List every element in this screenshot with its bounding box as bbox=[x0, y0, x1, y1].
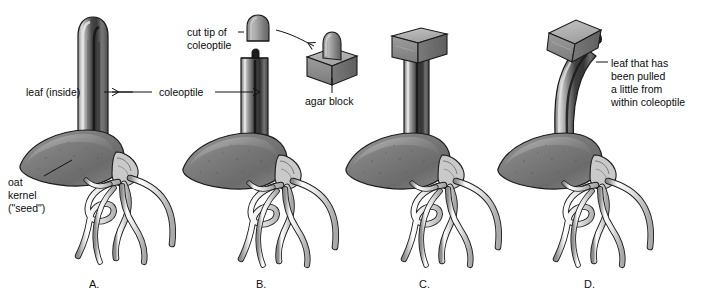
panel-letter-d: D. bbox=[584, 278, 595, 290]
panel-letter-c: C. bbox=[419, 278, 430, 290]
label-oat-kernel-line1: oat bbox=[8, 176, 23, 188]
label-oat-kernel-line2: kernel bbox=[8, 189, 37, 201]
label-leaf-inside: leaf (inside) bbox=[26, 86, 80, 98]
label-agar-block: agar block bbox=[305, 95, 354, 107]
label-pulled-leaf-line4: within coleoptile bbox=[610, 96, 685, 108]
label-pulled-leaf-line3: a little from bbox=[611, 83, 663, 95]
panel-letter-b: B. bbox=[256, 278, 266, 290]
panel-letter-a: A. bbox=[89, 278, 99, 290]
label-pulled-leaf-line2: been pulled bbox=[611, 70, 665, 82]
label-coleoptile: coleoptile bbox=[159, 86, 204, 98]
panel-b-leaf-nub bbox=[252, 49, 259, 58]
label-oat-kernel-line3: ("seed") bbox=[8, 202, 45, 214]
label-cut-tip-line1: cut tip of bbox=[187, 26, 227, 38]
coleoptile-figure: A. B. bbox=[0, 0, 706, 300]
label-cut-tip-line2: coleoptile bbox=[187, 39, 232, 51]
figure-canvas: A. B. bbox=[0, 0, 706, 300]
label-pulled-leaf-line1: leaf that has bbox=[611, 57, 668, 69]
